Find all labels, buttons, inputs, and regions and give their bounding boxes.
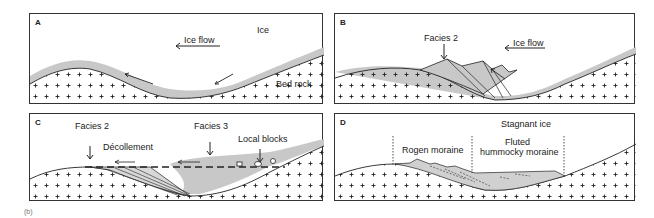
panel-a: A Ice Ice flow Bed rock — [29, 13, 323, 104]
stagnant-ice-label: Stagnant ice — [501, 120, 551, 129]
bed-rock-label: Bed rock — [276, 80, 312, 89]
panel-d-drawing — [335, 114, 636, 202]
panel-label-a: A — [35, 18, 41, 27]
ice-label: Ice — [257, 26, 269, 35]
ice-flow-label: Ice flow — [184, 36, 215, 45]
rogen-moraine-label: Rogen moraine — [402, 146, 464, 155]
figure-tag: (b) — [24, 208, 33, 215]
fluted-label: Fluted — [505, 138, 530, 147]
shear-arrow-icon — [215, 74, 233, 84]
panel-d: D Stagnant ice Rogen moraine Fluted humm… — [334, 113, 635, 201]
ice-flow-label: Ice flow — [513, 39, 544, 48]
panel-label-c: C — [35, 118, 41, 127]
panel-b: B Facies 2 Ice flow — [334, 13, 635, 104]
local-block — [237, 162, 242, 166]
facies-3-pointer-icon — [207, 142, 213, 155]
panel-c: C Facies 2 Facies 3 Décollement Local bl… — [29, 113, 323, 201]
facies-2-label: Facies 2 — [424, 34, 458, 43]
local-block — [271, 159, 276, 164]
decollement-label: Décollement — [103, 143, 153, 152]
panel-a-drawing — [30, 14, 324, 105]
facies-2-pointer-icon — [87, 146, 93, 159]
shear-arrow-icon — [115, 160, 135, 164]
panel-b-drawing — [335, 14, 636, 105]
facies-pointer-arrow-icon — [441, 44, 447, 59]
hummocky-moraine-label: hummocky moraine — [480, 148, 559, 157]
local-blocks-label: Local blocks — [238, 135, 288, 144]
panel-label-b: B — [340, 18, 346, 27]
local-block — [255, 162, 262, 167]
facies-2-label: Facies 2 — [75, 122, 109, 131]
panel-label-d: D — [340, 118, 346, 127]
facies-3-label: Facies 3 — [194, 122, 228, 131]
